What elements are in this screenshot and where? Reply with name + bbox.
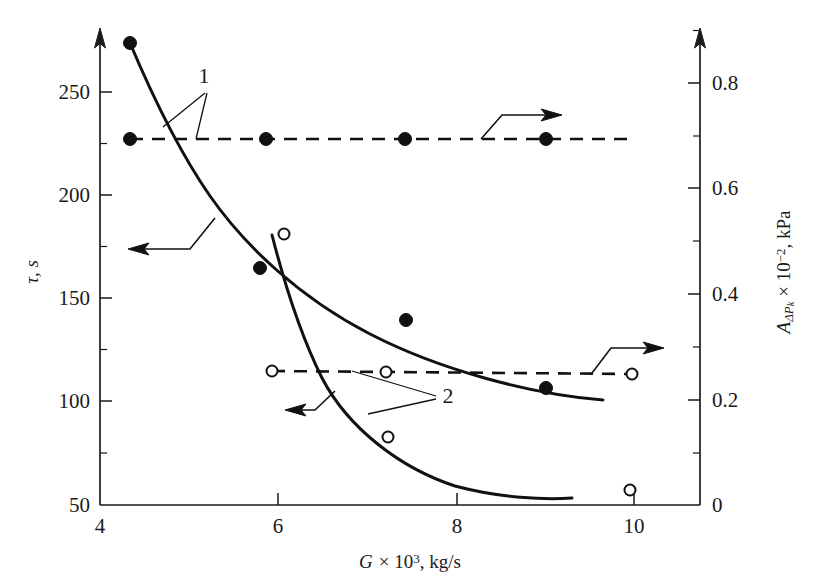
- arrow-right-A-1-path: [481, 115, 545, 139]
- left-tick-label-150: 150: [59, 286, 91, 310]
- data-point-filled: [540, 382, 553, 395]
- left-axis-title: τ, s: [21, 260, 42, 284]
- x-tick-label-8: 8: [452, 514, 463, 538]
- right-tick-label-0.6: 0.6: [712, 176, 738, 200]
- arrow-left-tau-1: [128, 218, 215, 255]
- annotation-2-leader-to-dashed: [352, 371, 436, 396]
- right-axis-title-exp: −2: [773, 249, 788, 263]
- left-tick-label-250: 250: [59, 80, 91, 104]
- right-axis-title-sub: ΔP: [781, 306, 796, 323]
- arrow-left-tau-1-path: [143, 218, 215, 249]
- right-axis-title-text: AΔPk× 10−2, kPa: [773, 210, 796, 336]
- left-axis-ticks: [100, 92, 112, 453]
- left-axis-tick-labels: 250 200 150 100 50: [59, 80, 91, 517]
- curve-2-tau: [272, 235, 572, 499]
- x-tick-label-4: 4: [95, 514, 106, 538]
- x-axis-title-times: × 10: [379, 551, 413, 572]
- right-axis-title: AΔPk× 10−2, kPa: [773, 210, 796, 336]
- data-point-open: [267, 366, 278, 377]
- data-point-open: [279, 229, 290, 240]
- data-point-open: [383, 432, 394, 443]
- data-point-filled: [399, 133, 412, 146]
- x-tick-label-10: 10: [624, 514, 645, 538]
- annotation-1-label: 1: [199, 63, 210, 88]
- right-axis-title-A: A: [773, 321, 794, 335]
- data-point-filled: [124, 37, 137, 50]
- annotation-2: 2: [352, 371, 454, 414]
- x-axis-tick-labels: 4 6 8 10: [95, 514, 645, 538]
- chart-figure: 250 200 150 100 50 0.8 0.6 0.4 0.2 0: [0, 0, 820, 587]
- x-axis-title-G: G: [359, 551, 373, 572]
- arrow-right-A-2: [592, 342, 664, 373]
- markers-series-1-tau: [124, 37, 553, 395]
- x-axis-title: G× 103, kg/s: [359, 551, 461, 572]
- x-axis-title-text: G× 103, kg/s: [359, 551, 461, 572]
- dashed-line-2-A: [272, 371, 632, 374]
- x-tick-label-6: 6: [273, 514, 284, 538]
- annotation-2-leader-to-curve: [368, 399, 436, 414]
- data-point-filled: [260, 133, 273, 146]
- arrow-left-tau-2: [285, 391, 335, 416]
- right-tick-label-0: 0: [712, 493, 723, 517]
- right-axis-title-subsub: k: [785, 301, 796, 306]
- annotation-1-leader-to-curve: [163, 93, 205, 127]
- right-axis-title-unit: , kPa: [773, 210, 794, 249]
- right-tick-label-0.8: 0.8: [712, 71, 738, 95]
- x-axis-ticks: [278, 493, 634, 505]
- data-point-filled: [254, 262, 267, 275]
- data-point-filled: [124, 133, 137, 146]
- annotation-2-label: 2: [443, 383, 454, 408]
- data-point-open: [381, 367, 392, 378]
- right-axis-tick-labels: 0.8 0.6 0.4 0.2 0: [712, 71, 739, 517]
- data-point-filled: [540, 133, 553, 146]
- right-axis-ticks: [688, 31, 700, 454]
- left-tick-label-200: 200: [59, 183, 91, 207]
- right-tick-label-0.2: 0.2: [712, 388, 738, 412]
- chart-canvas: 250 200 150 100 50 0.8 0.6 0.4 0.2 0: [0, 0, 820, 587]
- right-y-axis: [695, 28, 706, 505]
- annotation-1-leader-to-dashed: [196, 93, 207, 139]
- right-tick-label-0.4: 0.4: [712, 282, 739, 306]
- right-axis-title-rest: × 10: [773, 262, 794, 296]
- x-axis-title-unit: , kg/s: [420, 551, 461, 572]
- left-tick-label-100: 100: [59, 389, 91, 413]
- data-point-open: [625, 485, 636, 496]
- markers-series-2-tau: [279, 229, 636, 496]
- left-tick-label-50: 50: [69, 493, 90, 517]
- left-axis-title-text: τ, s: [21, 260, 42, 284]
- data-point-open: [627, 369, 638, 380]
- left-axis-title-tspan: τ, s: [21, 260, 42, 284]
- left-y-axis: [95, 28, 106, 505]
- arrow-right-A-2-path: [592, 348, 647, 373]
- data-point-filled: [400, 314, 413, 327]
